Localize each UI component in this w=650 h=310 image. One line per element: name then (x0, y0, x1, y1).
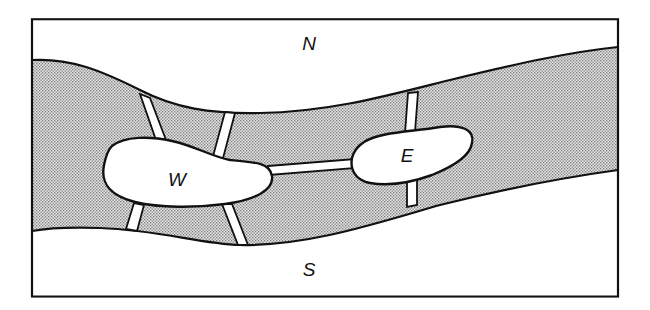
bridge-north-east (405, 92, 418, 133)
bridge-south-east (407, 180, 417, 207)
label-south: S (303, 259, 316, 280)
label-west: W (168, 169, 188, 190)
koenigsberg-bridges-diagram: N S W E (0, 0, 650, 310)
label-north: N (302, 33, 316, 54)
label-east: E (401, 145, 414, 166)
